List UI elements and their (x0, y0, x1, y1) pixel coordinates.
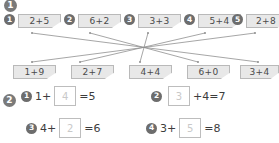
top-item-3-marker: 3 (124, 14, 135, 25)
problem-3: 3 4+ 2 =6 (26, 118, 101, 138)
problem-2-right: +4=7 (193, 90, 225, 103)
problem-2: 2 3 +4=7 (151, 86, 226, 106)
problem-1-answer-box[interactable]: 4 (54, 86, 76, 106)
problem-4-left: 3+ (160, 122, 176, 135)
top-card-3[interactable]: 3+3 (138, 14, 181, 28)
problem-2-answer-box[interactable]: 3 (168, 86, 190, 106)
bottom-card-2[interactable]: 2+7 (71, 65, 114, 79)
section-1-marker: 1 (4, 0, 17, 12)
problem-4-right: =8 (204, 122, 220, 135)
bottom-card-3-expr: 4+4 (140, 67, 160, 77)
top-item-2-marker: 2 (64, 14, 75, 25)
top-card-1[interactable]: 2+5 (18, 14, 61, 28)
line-4-to-2 (80, 33, 205, 62)
top-card-3-expr: 3+3 (149, 16, 169, 26)
problem-1-right: =5 (79, 90, 95, 103)
top-item-1: 1 (4, 14, 15, 25)
top-card-1-expr: 2+5 (29, 16, 49, 26)
section-1-number: 1 (4, 0, 17, 12)
bottom-card-5[interactable]: 3+4 (240, 65, 279, 79)
problem-4-answer-box[interactable]: 5 (179, 118, 201, 138)
bottom-card-1-expr: 1+9 (24, 67, 44, 77)
line-endpoints (31, 32, 259, 63)
bottom-card-1[interactable]: 1+9 (13, 65, 56, 79)
problem-2-marker: 2 (151, 91, 162, 102)
problem-3-right: =6 (84, 122, 100, 135)
top-item-4: 4 (184, 14, 195, 25)
bottom-card-4[interactable]: 6+0 (187, 65, 230, 79)
problem-3-answer-box[interactable]: 2 (59, 118, 81, 138)
section-2-marker: 2 (3, 88, 16, 107)
line-3-to-3 (140, 33, 148, 62)
bottom-card-4-expr: 6+0 (198, 67, 218, 77)
bottom-card-2-expr: 2+7 (82, 67, 102, 77)
top-card-5-expr: 2+8 (256, 16, 276, 26)
section-2-number: 2 (3, 94, 16, 107)
top-item-2: 2 (64, 14, 75, 25)
bottom-card-5-expr: 3+4 (249, 67, 269, 77)
problem-4-marker: 4 (146, 123, 157, 134)
top-item-4-marker: 4 (184, 14, 195, 25)
problem-3-marker: 3 (26, 123, 37, 134)
top-card-5[interactable]: 2+8 (246, 14, 279, 28)
problem-1-left: 1+ (35, 90, 51, 103)
top-item-5: 5 (232, 14, 243, 25)
worksheet-page: 1 1 2+5 2 6+2 3 3+3 4 5+4 5 2+8 (0, 0, 279, 143)
problem-1: 1 1+ 4 =5 (21, 86, 96, 106)
line-1-to-5 (32, 33, 258, 62)
top-card-2[interactable]: 6+2 (78, 14, 121, 28)
top-item-5-marker: 5 (232, 14, 243, 25)
problem-3-left: 4+ (40, 122, 56, 135)
bottom-card-3[interactable]: 4+4 (129, 65, 172, 79)
line-5-to-1 (32, 33, 255, 62)
line-2-to-4 (90, 33, 198, 62)
top-item-3: 3 (124, 14, 135, 25)
top-item-1-marker: 1 (4, 14, 15, 25)
top-card-4-expr: 5+4 (209, 16, 229, 26)
problem-4: 4 3+ 5 =8 (146, 118, 221, 138)
top-card-2-expr: 6+2 (89, 16, 109, 26)
problem-1-marker: 1 (21, 91, 32, 102)
